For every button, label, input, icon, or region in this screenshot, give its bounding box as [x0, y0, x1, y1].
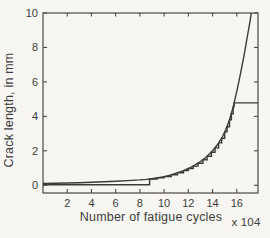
- y-tick-label: 10: [26, 7, 38, 19]
- axes-box: [43, 13, 258, 193]
- smooth-crack-growth-curve: [43, 13, 251, 184]
- x-tick-label: 8: [137, 197, 143, 209]
- y-tick-label: 6: [32, 76, 38, 88]
- y-tick-label: 2: [32, 145, 38, 157]
- y-axis-title: Crack length, in mm: [2, 53, 16, 168]
- y-tick-label: 4: [32, 110, 38, 122]
- x-tick-label: 2: [64, 197, 70, 209]
- y-tick-label: 8: [32, 41, 38, 53]
- y-tick-label: 0: [32, 179, 38, 191]
- x-tick-label: 4: [88, 197, 94, 209]
- x-tick-label: 12: [182, 197, 194, 209]
- fatigue-crack-growth-figure: 2468101214160246810 Crack length, in mm …: [0, 0, 270, 238]
- x-tick-label: 14: [206, 197, 218, 209]
- x-axis-multiplier: x 104: [231, 216, 260, 228]
- x-tick-label: 16: [231, 197, 243, 209]
- x-tick-label: 6: [113, 197, 119, 209]
- x-tick-label: 10: [158, 197, 170, 209]
- x-axis-title: Number of fatigue cycles: [80, 210, 222, 224]
- observed-step-path: [43, 103, 258, 185]
- crack-growth-chart: 2468101214160246810: [0, 0, 270, 238]
